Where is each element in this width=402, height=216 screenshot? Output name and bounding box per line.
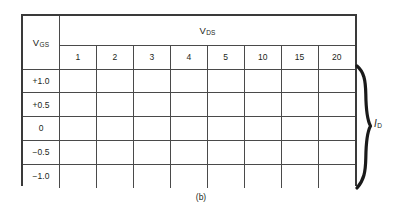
- figure-caption: (b): [0, 192, 402, 202]
- table-row: +0.5: [23, 93, 355, 117]
- row-header-cell: +0.5: [23, 93, 60, 117]
- row-header-cell: −1.0: [23, 164, 60, 188]
- data-cell[interactable]: [133, 93, 170, 117]
- column-header-cell: 20: [318, 45, 355, 69]
- measurement-table: VGS VDS 1 2 3 4 5 10 15 20: [21, 14, 357, 186]
- column-header-cell: 15: [281, 45, 318, 69]
- data-cell[interactable]: [170, 69, 207, 93]
- data-cell[interactable]: [318, 164, 355, 188]
- data-cell[interactable]: [96, 164, 133, 188]
- data-cell[interactable]: [170, 117, 207, 141]
- data-cell[interactable]: [96, 140, 133, 164]
- column-header-row: 1 2 3 4 5 10 15 20: [23, 45, 355, 69]
- table-row: +1.0: [23, 69, 355, 93]
- data-cell[interactable]: [207, 164, 244, 188]
- data-cell[interactable]: [96, 69, 133, 93]
- data-cell[interactable]: [281, 117, 318, 141]
- data-cell[interactable]: [60, 117, 97, 141]
- data-cell[interactable]: [133, 69, 170, 93]
- data-cell[interactable]: [318, 93, 355, 117]
- grid-body: VGS VDS 1 2 3 4 5 10 15 20: [23, 16, 355, 188]
- data-cell[interactable]: [60, 164, 97, 188]
- data-cell[interactable]: [133, 117, 170, 141]
- data-cell[interactable]: [60, 140, 97, 164]
- data-cell[interactable]: [170, 164, 207, 188]
- column-header-cell: 10: [244, 45, 281, 69]
- data-cell[interactable]: [318, 140, 355, 164]
- data-cell[interactable]: [281, 164, 318, 188]
- header-row-group: VGS VDS: [23, 16, 355, 45]
- data-cell[interactable]: [281, 140, 318, 164]
- id-subscript: D: [377, 122, 382, 129]
- data-cell[interactable]: [133, 140, 170, 164]
- data-cell[interactable]: [207, 140, 244, 164]
- column-header-cell: 2: [96, 45, 133, 69]
- data-cell[interactable]: [281, 93, 318, 117]
- vds-subscript: DS: [206, 29, 216, 36]
- data-cell[interactable]: [133, 164, 170, 188]
- data-cell[interactable]: [170, 93, 207, 117]
- data-cell[interactable]: [207, 93, 244, 117]
- column-header-cell: 3: [133, 45, 170, 69]
- column-header-cell: 1: [60, 45, 97, 69]
- data-cell[interactable]: [281, 69, 318, 93]
- vds-symbol: VDS: [199, 26, 215, 36]
- data-grid: VGS VDS 1 2 3 4 5 10 15 20: [23, 16, 355, 188]
- data-cell[interactable]: [244, 117, 281, 141]
- curly-brace-icon: [355, 64, 375, 190]
- row-header-cell: −0.5: [23, 140, 60, 164]
- bracket-label-id: ID: [374, 118, 382, 129]
- table-row: 0: [23, 117, 355, 141]
- data-cell[interactable]: [170, 140, 207, 164]
- row-header-corner-vgs: VGS: [23, 16, 60, 69]
- data-cell[interactable]: [96, 117, 133, 141]
- data-cell[interactable]: [60, 93, 97, 117]
- data-cell[interactable]: [207, 117, 244, 141]
- column-group-header-vds: VDS: [60, 16, 356, 45]
- data-cell[interactable]: [96, 93, 133, 117]
- id-symbol: ID: [374, 118, 382, 129]
- vgs-symbol: VGS: [33, 38, 50, 48]
- data-cell[interactable]: [207, 69, 244, 93]
- vgs-subscript: GS: [39, 41, 49, 48]
- column-header-cell: 5: [207, 45, 244, 69]
- data-cell[interactable]: [318, 69, 355, 93]
- data-cell[interactable]: [244, 69, 281, 93]
- data-cell[interactable]: [244, 164, 281, 188]
- row-header-cell: +1.0: [23, 69, 60, 93]
- vds-base: V: [199, 25, 205, 36]
- data-cell[interactable]: [60, 69, 97, 93]
- figure-container: VGS VDS 1 2 3 4 5 10 15 20: [0, 0, 402, 216]
- table-row: −1.0: [23, 164, 355, 188]
- column-header-cell: 4: [170, 45, 207, 69]
- data-cell[interactable]: [244, 93, 281, 117]
- data-cell[interactable]: [244, 140, 281, 164]
- data-cell[interactable]: [318, 117, 355, 141]
- table-row: −0.5: [23, 140, 355, 164]
- row-header-cell: 0: [23, 117, 60, 141]
